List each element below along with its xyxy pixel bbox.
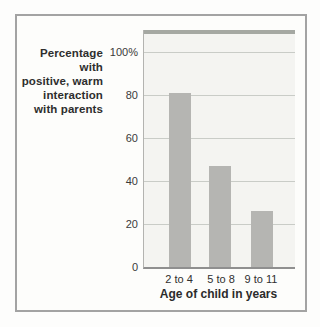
x-axis-label: Age of child in years (143, 287, 294, 301)
y-tick-0: 0 (93, 261, 138, 273)
gridline-60 (144, 138, 295, 139)
plot-top-band (144, 30, 295, 34)
y-tick-100: 100% (93, 46, 138, 58)
y-axis-label-line: Percentage with (18, 46, 103, 74)
y-tick-40: 40 (93, 175, 138, 187)
y-tick-80: 80 (93, 89, 138, 101)
plot-area (143, 30, 295, 269)
y-axis-label-line: interaction (18, 88, 103, 102)
x-tick-9-to-11: 9 to 11 (235, 273, 287, 285)
bar-9-to-11 (251, 211, 273, 267)
y-axis-label: Percentage with positive, warm interacti… (18, 46, 103, 116)
gridline-100 (144, 52, 295, 53)
y-tick-20: 20 (93, 218, 138, 230)
bar-5-to-8 (209, 166, 231, 267)
y-axis-label-line: positive, warm (18, 74, 103, 88)
y-tick-60: 60 (93, 132, 138, 144)
bar-2-to-4 (169, 93, 191, 267)
y-axis-label-line: with parents (18, 102, 103, 116)
gridline-80 (144, 95, 295, 96)
figure-canvas: Percentage with positive, warm interacti… (0, 0, 320, 327)
